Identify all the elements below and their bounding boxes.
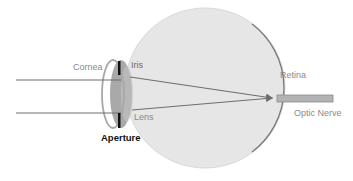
label-aperture: Aperture [101, 133, 141, 143]
label-retina: Retina [280, 71, 306, 80]
optic-nerve [277, 95, 333, 102]
label-cornea: Cornea [73, 63, 103, 72]
label-iris: Iris [131, 61, 143, 70]
iris-lower [118, 113, 121, 128]
eye-diagram: Cornea Iris Lens Aperture Retina Optic N… [0, 0, 353, 181]
eye-diagram-graphic [0, 0, 353, 181]
label-lens: Lens [134, 113, 154, 122]
iris-upper [118, 61, 121, 75]
label-optic-nerve: Optic Nerve [294, 109, 342, 118]
